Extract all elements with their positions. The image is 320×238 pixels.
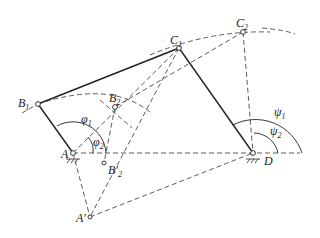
label-C2: C2 bbox=[236, 16, 248, 32]
label-B2p: B′2 bbox=[108, 163, 122, 179]
link-C1D bbox=[179, 48, 253, 153]
label-phi1: φ1 bbox=[81, 112, 92, 128]
angle-psi1 bbox=[233, 120, 302, 153]
line-C1Ap bbox=[90, 48, 179, 217]
label-Ap: A′ bbox=[75, 211, 86, 225]
linkage-diagram: A B1 B2 B′2 C1 C2 D A′ φ1 φ2 ψ1 ψ2 bbox=[0, 0, 320, 238]
label-psi2: ψ2 bbox=[270, 124, 281, 140]
joint-D bbox=[251, 151, 256, 156]
joint-Ap bbox=[88, 215, 92, 219]
joint-B1 bbox=[36, 102, 41, 107]
link-AB1 bbox=[38, 104, 73, 153]
label-phi2: φ2 bbox=[93, 135, 104, 151]
label-B1: B1 bbox=[18, 96, 29, 112]
line-C2D bbox=[243, 32, 253, 153]
arc-C bbox=[150, 32, 270, 55]
arc-C-ext bbox=[262, 28, 295, 34]
label-A: A bbox=[60, 147, 69, 161]
joint-B2p bbox=[102, 161, 106, 165]
label-psi1: ψ1 bbox=[274, 105, 285, 121]
label-B2: B2 bbox=[109, 91, 120, 107]
joint-A bbox=[71, 151, 76, 156]
label-D: D bbox=[263, 154, 273, 168]
ground-D-icon bbox=[246, 159, 260, 163]
arc-B bbox=[38, 94, 150, 112]
line-B2B2p bbox=[104, 107, 115, 163]
label-C1: C1 bbox=[170, 33, 182, 49]
